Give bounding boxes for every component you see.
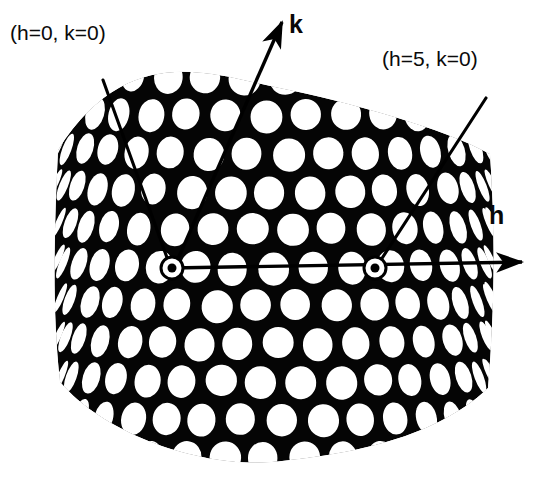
- lattice-pore: [81, 436, 108, 472]
- h5-lattice-marker: [364, 257, 386, 279]
- lattice-pore: [477, 56, 496, 90]
- label-k-axis: k: [289, 12, 303, 37]
- lattice-pore: [49, 396, 69, 428]
- lattice-pore: [63, 435, 85, 468]
- lattice-pore: [482, 433, 502, 465]
- lattice-pore: [472, 93, 492, 127]
- lattice-pore: [347, 59, 380, 94]
- lattice-pore: [481, 434, 499, 466]
- lattice-pore: [45, 93, 65, 126]
- lattice-pore: [478, 396, 498, 428]
- origin-lattice-marker: [161, 257, 183, 279]
- lattice-micrograph-svg: [0, 0, 549, 494]
- lattice-pore: [56, 398, 76, 432]
- lattice-pore: [472, 435, 494, 469]
- lattice-pore: [105, 437, 133, 473]
- lattice-pore: [430, 94, 456, 130]
- lattice-pore: [263, 327, 294, 358]
- lattice-pore: [258, 253, 289, 286]
- lattice-pore: [71, 55, 95, 89]
- lattice-pore: [254, 176, 284, 209]
- label-h-axis: h: [489, 203, 504, 228]
- lattice-pore: [307, 62, 338, 97]
- lattice-pore: [52, 93, 71, 126]
- lattice-pore: [52, 435, 71, 468]
- figure-root: (h=0, k=0) (h=5, k=0) k h: [0, 0, 549, 494]
- lattice-pore: [400, 438, 431, 474]
- label-h5-index: (h=5, k=0): [382, 48, 478, 69]
- lattice-pore: [48, 53, 66, 84]
- lattice-pore: [482, 54, 501, 86]
- lattice-pore: [56, 55, 75, 88]
- lattice-pore: [429, 437, 457, 474]
- origin-marker-dot: [168, 264, 177, 273]
- label-origin-index: (h=0, k=0): [10, 22, 106, 43]
- lattice-pore: [483, 395, 503, 427]
- h5-marker-dot: [371, 264, 380, 273]
- lattice-pore: [453, 437, 477, 473]
